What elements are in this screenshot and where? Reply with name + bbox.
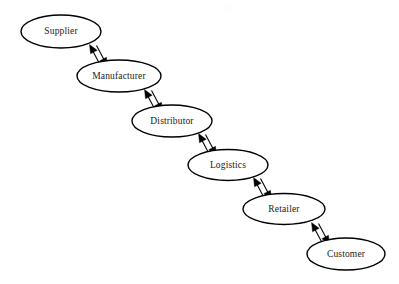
node-customer[interactable]: Customer: [307, 238, 385, 270]
diagram-canvas: Supplier Manufacturer Distributor Logist…: [0, 0, 399, 284]
node-logistics[interactable]: Logistics: [188, 150, 268, 181]
supply-chain-diagram: Supplier Manufacturer Distributor Logist…: [0, 0, 399, 284]
supplier-label: Supplier: [44, 26, 78, 36]
distributor-label: Distributor: [150, 116, 194, 126]
logistics-label: Logistics: [210, 160, 246, 170]
manufacturer-label: Manufacturer: [92, 71, 146, 81]
node-manufacturer[interactable]: Manufacturer: [77, 60, 161, 92]
customer-label: Customer: [327, 249, 366, 259]
node-supplier[interactable]: Supplier: [21, 15, 101, 48]
arrow-to-retailer-up-icon: [312, 223, 323, 244]
node-distributor[interactable]: Distributor: [132, 105, 212, 137]
node-retailer[interactable]: Retailer: [243, 194, 325, 225]
retailer-label: Retailer: [268, 204, 300, 214]
